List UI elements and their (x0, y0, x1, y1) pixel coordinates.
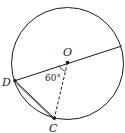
chord-dc-inner (17, 84, 54, 120)
geometry-diagram: O D C 60° (0, 0, 125, 133)
angle-label: 60° (45, 73, 61, 83)
label-d: D (1, 76, 11, 89)
point-d (13, 79, 17, 83)
label-c: C (49, 122, 58, 133)
point-o (66, 61, 70, 65)
chord-dc (15, 81, 54, 119)
label-o: O (63, 46, 72, 59)
radius-oc-dashed (54, 63, 67, 119)
point-c (53, 117, 57, 121)
